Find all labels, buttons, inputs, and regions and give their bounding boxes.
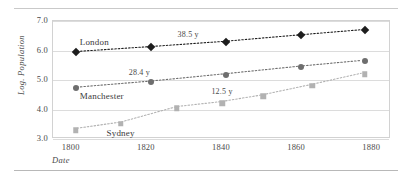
- data-point-marker: [174, 105, 180, 111]
- y-tick-label: 7.0: [37, 15, 48, 25]
- figure-container: Log. Population Date 7.06.05.04.03.0 180…: [0, 0, 412, 180]
- y-tick-label: 4.0: [37, 104, 48, 114]
- x-axis-title: Date: [52, 155, 70, 165]
- data-point-marker: [219, 100, 225, 106]
- annotation-london: 38.5 y: [178, 30, 199, 39]
- data-point-marker: [261, 93, 267, 99]
- annotation-manchester: 28.4 y: [129, 67, 150, 76]
- y-tick-label: 6.0: [37, 45, 48, 55]
- y-axis-tick-labels: 7.06.05.04.03.0: [0, 20, 48, 138]
- x-axis-tick-labels: 18001820184018601880: [52, 142, 390, 154]
- data-point-marker: [118, 121, 124, 127]
- top-divider-rule: [14, 8, 398, 9]
- annotation-sydney: 12.5 y: [211, 87, 232, 96]
- series-label-london: London: [80, 37, 109, 47]
- x-tick-label: 1800: [62, 142, 80, 152]
- gridline: [53, 139, 389, 140]
- plot-area: London38.5 yManchester28.4 ySydney12.5 y: [52, 20, 390, 138]
- y-tick-label: 5.0: [37, 74, 48, 84]
- series-label-manchester: Manchester: [80, 91, 124, 101]
- data-point-marker: [362, 58, 368, 64]
- data-point-marker: [73, 127, 79, 133]
- data-point-marker: [298, 64, 304, 70]
- x-tick-label: 1860: [287, 142, 305, 152]
- x-tick-label: 1840: [212, 142, 230, 152]
- x-tick-label: 1880: [362, 142, 380, 152]
- x-tick-label: 1820: [137, 142, 155, 152]
- data-point-marker: [223, 72, 229, 78]
- data-point-marker: [309, 83, 315, 89]
- data-point-marker: [148, 79, 154, 85]
- series-label-sydney: Sydney: [106, 128, 134, 138]
- bottom-divider-rule: [14, 170, 398, 171]
- y-tick-label: 3.0: [37, 133, 48, 143]
- data-point-marker: [73, 85, 79, 91]
- series-line: [77, 30, 361, 52]
- data-point-marker: [362, 71, 368, 77]
